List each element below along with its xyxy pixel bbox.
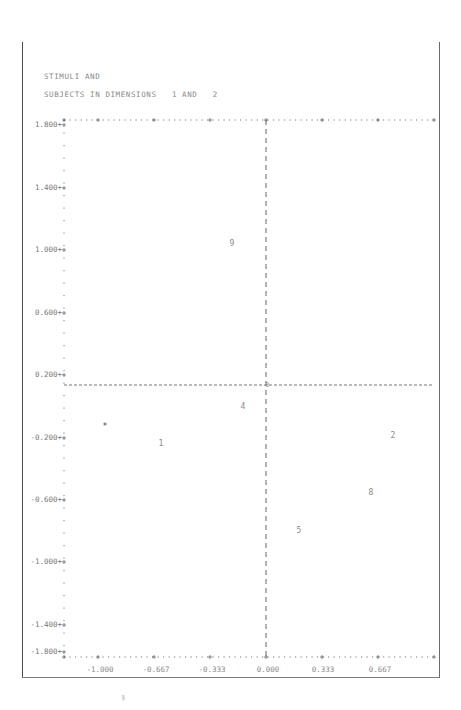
data-point-2: 2 bbox=[391, 431, 396, 440]
y-tick-label: -1.400+ bbox=[24, 620, 62, 629]
x-tick-label: 0.000 bbox=[257, 665, 280, 674]
y-tick-label: 0.600+ bbox=[24, 308, 62, 317]
data-point-9: 9 bbox=[230, 239, 235, 248]
data-point-1: 1 bbox=[159, 439, 164, 448]
y-tick-label: -1.000+ bbox=[24, 557, 62, 566]
y-tick-label: 1.000+ bbox=[24, 245, 62, 254]
y-tick-marks bbox=[62, 123, 66, 654]
scatter-plot-area bbox=[0, 0, 461, 710]
y-tick-label: -0.600+ bbox=[24, 495, 62, 504]
data-point-star: * bbox=[103, 422, 108, 431]
data-point-5: 5 bbox=[297, 526, 302, 535]
x-tick-label: 0.667 bbox=[369, 665, 392, 674]
y-tick-label: -1.800+ bbox=[24, 647, 62, 656]
x-tick-marks bbox=[62, 118, 436, 659]
x-tick-label: -0.667 bbox=[142, 665, 169, 674]
x-tick-label: -0.333 bbox=[198, 665, 225, 674]
y-tick-label: 1.400+ bbox=[24, 183, 62, 192]
y-tick-label: 0.200+ bbox=[24, 370, 62, 379]
x-tick-label: 0.333 bbox=[312, 665, 335, 674]
data-point-8: 8 bbox=[369, 488, 374, 497]
y-tick-label: -0.200+ bbox=[24, 433, 62, 442]
x-tick-label: -1.000 bbox=[86, 665, 113, 674]
data-point-3: 3 bbox=[265, 381, 269, 389]
y-tick-label: 1.800+ bbox=[24, 120, 62, 129]
data-point-4: 4 bbox=[241, 402, 246, 411]
